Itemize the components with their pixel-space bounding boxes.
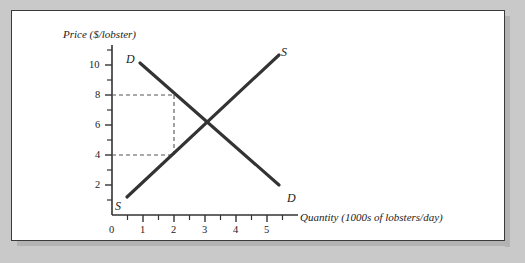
x-tick-label-3: 3 [202, 225, 207, 236]
x-tick-label-5: 5 [264, 225, 269, 236]
x-tick-label-1: 1 [140, 225, 145, 236]
figure-container: Price ($/lobster) Quantity (1000s of lob… [0, 0, 525, 263]
x-tick-label-4: 4 [233, 225, 238, 236]
y-axis-title: Price ($/lobster) [63, 29, 136, 40]
y-tick-label-10: 10 [89, 60, 100, 71]
x-tick-label-0: 0 [109, 225, 114, 236]
supply-curve-label-bottom: S [115, 200, 121, 212]
demand-curve-label-bottom: D [287, 192, 296, 204]
y-tick-label-4: 4 [95, 150, 100, 161]
axis-lines [112, 45, 298, 215]
demand-curve-label-top: D [126, 53, 135, 65]
y-tick-label-6: 6 [95, 120, 100, 131]
x-axis-title: Quantity (1000s of lobsters/day) [300, 212, 443, 223]
annotation-dashed-lines [112, 95, 174, 155]
y-tick-label-8: 8 [95, 90, 100, 101]
supply-curve-label-top: S [281, 46, 287, 58]
supply-curve [127, 55, 279, 197]
x-major-ticks [143, 215, 267, 222]
y-tick-label-2: 2 [95, 180, 100, 191]
x-tick-label-2: 2 [171, 225, 176, 236]
y-major-ticks [105, 65, 112, 185]
